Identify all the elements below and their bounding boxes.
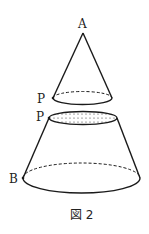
label-a: A xyxy=(77,17,87,31)
point-b xyxy=(22,177,25,180)
cone-right-edge xyxy=(83,33,112,98)
frustum-top-face xyxy=(49,112,117,125)
label-p-frustum: P xyxy=(36,110,44,124)
cone-base-front xyxy=(53,98,112,105)
top-cone xyxy=(52,33,112,105)
label-p-cone: P xyxy=(37,92,45,106)
frustum-base-front xyxy=(23,178,140,193)
label-b: B xyxy=(9,172,18,186)
cone-diagram: A P P B 図 2 xyxy=(0,0,149,234)
point-p-frustum xyxy=(48,117,51,120)
cone-left-edge xyxy=(53,33,83,98)
cone-base-back xyxy=(53,92,112,99)
figure-caption: 図 2 xyxy=(70,208,93,222)
point-p-cone xyxy=(52,97,55,100)
frustum-base-back xyxy=(23,163,140,178)
